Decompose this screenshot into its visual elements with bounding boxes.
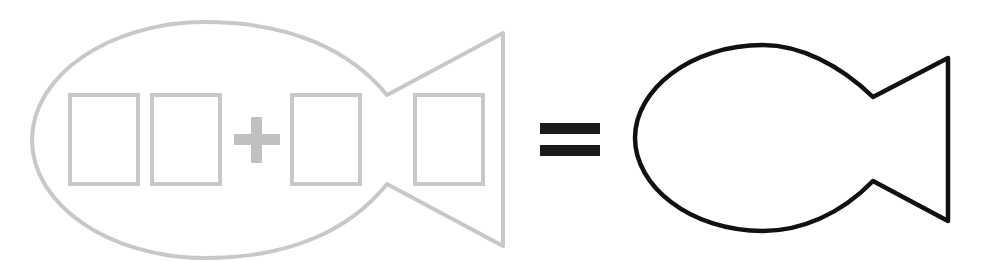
answer-box-1[interactable] [70, 95, 138, 184]
right-fish-outline [635, 45, 948, 231]
fish-equation-diagram [0, 0, 984, 262]
answer-box-2[interactable] [152, 95, 220, 184]
equals-icon [540, 123, 600, 156]
plus-icon [234, 117, 280, 163]
right-fish[interactable] [635, 45, 948, 231]
answer-box-3[interactable] [292, 95, 360, 184]
answer-box-4[interactable] [415, 95, 483, 184]
left-fish [32, 22, 503, 258]
